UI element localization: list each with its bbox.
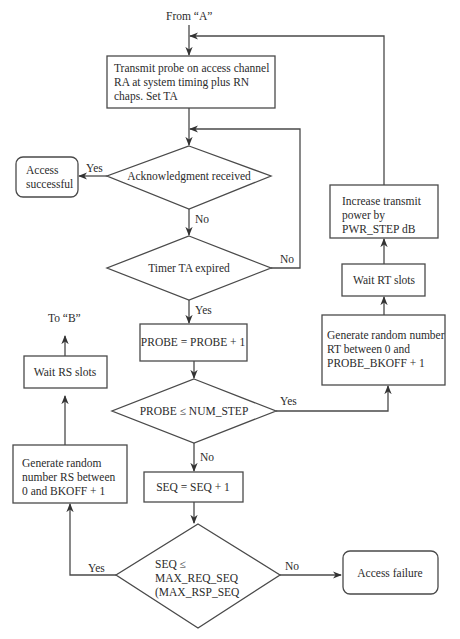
wait-rs-box: Wait RS slots — [24, 356, 107, 388]
node-text: chaps. Set TA — [114, 90, 178, 103]
node-text: PROBE ≤ NUM_STEP — [140, 405, 249, 417]
generate-rs-box: Generate random number RS between 0 and … — [13, 445, 127, 503]
access-failure-terminal: Access failure — [343, 551, 438, 594]
edge-label-ack-yes: Yes — [86, 162, 103, 174]
probe-increment-box: PROBE = PROBE + 1 — [140, 324, 247, 361]
start-label: From “A” — [166, 10, 212, 22]
node-text: successful — [26, 178, 73, 190]
timer-expired-decision: Timer TA expired — [107, 236, 271, 300]
node-text: (MAX_RSP_SEQ — [155, 586, 240, 599]
edge-label-ack-no: No — [195, 213, 209, 225]
increase-power-box: Increase transmit power by PWR_STEP dB — [330, 185, 438, 238]
node-text: Access failure — [357, 567, 422, 579]
node-text: SEQ ≤ — [155, 558, 186, 570]
edge-label-probe-yes: Yes — [280, 395, 297, 407]
node-text: 0 and BKOFF + 1 — [22, 485, 105, 497]
edge-label-timer-no: No — [280, 253, 294, 265]
node-text: RA at system timing plus RN — [114, 76, 250, 89]
edge-label-seq-no: No — [285, 560, 299, 572]
node-text: Access — [26, 164, 59, 176]
node-text: Increase transmit — [342, 195, 422, 207]
flowchart: From “A” Transmit probe on access channe… — [0, 0, 460, 639]
probe-check-decision: PROBE ≤ NUM_STEP — [112, 379, 276, 443]
edge-label-probe-no: No — [200, 451, 214, 463]
ack-received-decision: Acknowledgment received — [107, 146, 271, 209]
seq-check-decision: SEQ ≤ MAX_REQ_SEQ (MAX_RSP_SEQ — [116, 524, 280, 628]
node-text: MAX_REQ_SEQ — [155, 572, 239, 584]
node-text: PROBE = PROBE + 1 — [141, 336, 246, 348]
node-text: Transmit probe on access channel — [114, 62, 269, 75]
node-text: PWR_STEP dB — [342, 223, 416, 235]
node-text: PROBE_BKOFF + 1 — [327, 357, 425, 369]
node-text: Generate random — [22, 457, 102, 469]
transmit-probe-box: Transmit probe on access channel RA at s… — [107, 56, 275, 108]
node-text: Acknowledgment received — [127, 170, 251, 183]
seq-increment-box: SEQ = SEQ + 1 — [144, 472, 243, 502]
edge-label-seq-yes: Yes — [88, 562, 105, 574]
generate-rt-box: Generate random number RT between 0 and … — [322, 315, 445, 385]
node-text: number RS between — [22, 471, 116, 483]
node-text: Generate random number — [327, 329, 445, 341]
wait-rt-box: Wait RT slots — [342, 264, 425, 296]
node-text: RT between 0 and — [327, 343, 410, 355]
node-text: SEQ = SEQ + 1 — [156, 481, 230, 493]
exit-label: To “B” — [48, 312, 81, 324]
node-text: Wait RT slots — [353, 274, 416, 286]
node-text: Timer TA expired — [148, 262, 230, 275]
node-text: Wait RS slots — [34, 366, 97, 378]
edge-label-timer-yes: Yes — [195, 304, 212, 316]
node-text: power by — [342, 209, 385, 222]
access-successful-terminal: Access successful — [16, 157, 78, 197]
